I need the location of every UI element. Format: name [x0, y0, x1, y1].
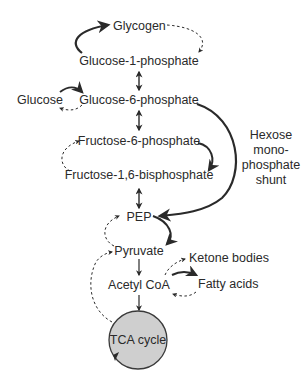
hexose-shunt-label: Hexose mono- phosphate shunt — [238, 128, 304, 188]
node-acetyl-coa: Acetyl CoA — [108, 278, 170, 292]
node-tca-cycle: TCA cycle — [110, 333, 166, 347]
shunt-line-4: shunt — [238, 173, 304, 188]
arrow-f16bp-to-f6p — [62, 141, 79, 171]
node-pep: PEP — [126, 210, 151, 224]
arrow-glycogen-to-g1p — [167, 25, 203, 52]
shunt-line-3: phosphate — [238, 158, 304, 173]
arrow-fattyacids-to-acetylcoa — [173, 292, 196, 296]
node-glucose-6-phosphate: Glucose-6-phosphate — [79, 93, 199, 107]
node-fructose-1-6-bisphosphate: Fructose-1,6-bisphosphate — [65, 168, 214, 182]
arrow-pep-to-pyruvate — [153, 216, 171, 244]
node-glycogen: Glycogen — [113, 19, 166, 33]
node-pyruvate: Pyruvate — [114, 244, 163, 258]
shunt-line-2: mono- — [238, 143, 304, 158]
arrow-glucose-to-g6p — [60, 88, 82, 93]
node-ketone-bodies: Ketone bodies — [189, 251, 269, 265]
shunt-line-1: Hexose — [238, 128, 304, 143]
arrow-hexose-shunt — [160, 104, 236, 216]
arrow-acetylcoa-to-fattyacids — [172, 272, 196, 275]
node-fatty-acids: Fatty acids — [198, 277, 258, 291]
arrow-g1p-to-glycogen — [76, 25, 108, 53]
node-glucose: Glucose — [17, 93, 63, 107]
node-fructose-6-phosphate: Fructose-6-phosphate — [78, 134, 200, 148]
arrow-pyruvate-to-pep — [105, 216, 119, 246]
node-glucose-1-phosphate: Glucose-1-phosphate — [79, 54, 199, 68]
